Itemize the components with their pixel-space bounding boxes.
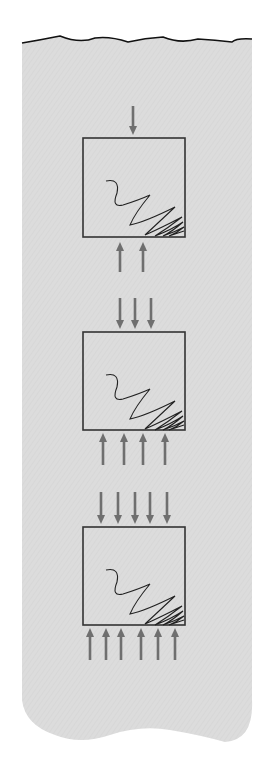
force-diagram [0,0,268,765]
paper-strip [22,36,252,742]
